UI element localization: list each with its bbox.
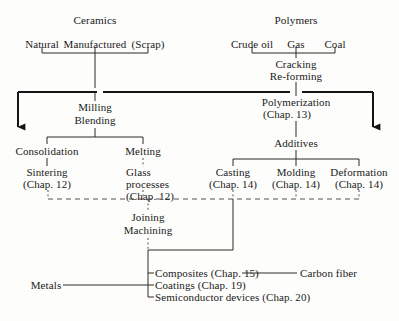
label-cracking: Cracking — [275, 58, 316, 71]
label-milling: Milling — [78, 101, 112, 114]
label-crude-oil: Crude oil — [231, 38, 273, 51]
label-casting: Casting — [216, 166, 250, 179]
label-casting-chapter: (Chap. 14) — [209, 178, 257, 191]
label-metals: Metals — [31, 279, 62, 292]
label-glass-chapter: (Chap. 12) — [126, 190, 174, 203]
label-molding: Molding — [277, 166, 316, 179]
label-manufactured: Manufactured — [64, 38, 127, 51]
label-polymerization-chapter: (Chap. 13) — [263, 108, 311, 121]
label-coal: Coal — [324, 38, 345, 51]
label-melting: Melting — [125, 145, 161, 158]
process-flow-diagram: Ceramics Natural Manufactured (Scrap) Po… — [0, 0, 399, 321]
label-machining: Machining — [124, 224, 173, 237]
label-coatings: Coatings (Chap. 19) — [155, 279, 246, 292]
label-carbon-fiber: Carbon fiber — [300, 267, 357, 280]
label-molding-chapter: (Chap. 14) — [272, 178, 320, 191]
ceramics-top-bracket — [42, 47, 148, 88]
label-glass: Glass — [126, 166, 151, 179]
label-deformation: Deformation — [330, 166, 387, 179]
label-blending: Blending — [74, 114, 115, 127]
label-processes: processes — [126, 178, 169, 191]
label-polymerization: Polymerization — [262, 96, 331, 109]
label-re-forming: Re-forming — [270, 70, 322, 83]
additives-branch — [233, 150, 359, 166]
label-sintering: Sintering — [26, 166, 67, 179]
label-consolidation: Consolidation — [15, 145, 78, 158]
label-deformation-chapter: (Chap. 14) — [335, 178, 383, 191]
label-gas: Gas — [287, 38, 304, 51]
label-polymers: Polymers — [274, 14, 317, 27]
label-ceramics: Ceramics — [73, 14, 116, 27]
label-semiconductor-devices: Semiconductor devices (Chap. 20) — [155, 291, 310, 304]
output-bracket — [148, 250, 154, 297]
label-natural: Natural — [25, 38, 59, 51]
label-additives: Additives — [274, 137, 318, 150]
label-scrap: (Scrap) — [131, 38, 164, 51]
heavy-crossflow-right — [103, 92, 373, 127]
label-sintering-chapter: (Chap. 12) — [23, 178, 71, 191]
label-joining: Joining — [131, 211, 164, 224]
label-composites: Composites (Chap. 15) — [155, 267, 259, 280]
